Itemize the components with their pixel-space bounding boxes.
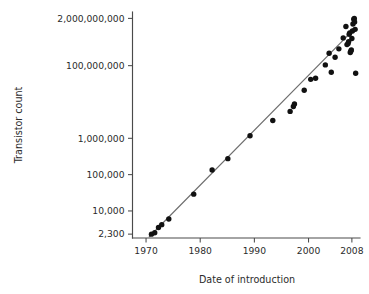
- y-axis-title: Transistor count: [13, 86, 24, 164]
- data-point: [159, 222, 164, 227]
- y-tick-label-2: 100,000: [87, 169, 125, 180]
- x-tick-label-3: 2000: [297, 245, 321, 256]
- data-point: [349, 36, 354, 41]
- data-point: [329, 70, 334, 75]
- data-point: [326, 51, 331, 56]
- data-point: [302, 88, 307, 93]
- x-axis-title: Date of introduction: [199, 274, 295, 285]
- y-tick-label-4: 100,000,000: [66, 60, 125, 71]
- data-point: [349, 47, 354, 52]
- data-point: [247, 133, 252, 138]
- data-point: [152, 230, 157, 235]
- y-tick-label-3: 1,000,000: [78, 133, 125, 144]
- data-point: [341, 35, 346, 40]
- data-point: [287, 109, 292, 114]
- data-point: [332, 55, 337, 60]
- data-point: [313, 76, 318, 81]
- data-point: [225, 156, 230, 161]
- y-tick-label-1: 10,000: [92, 205, 124, 216]
- y-tick-label-5: 2,000,000,000: [57, 13, 124, 24]
- data-point: [191, 191, 196, 196]
- data-point: [336, 46, 341, 51]
- data-point: [352, 27, 357, 32]
- x-tick-label-0: 1970: [134, 245, 158, 256]
- data-point: [308, 77, 313, 82]
- data-point: [270, 118, 275, 123]
- y-tick-label-0: 2,300: [98, 228, 124, 239]
- data-point: [209, 167, 214, 172]
- data-point: [353, 70, 358, 75]
- data-point: [352, 19, 357, 24]
- chart-canvas: 2,30010,000100,0001,000,000100,000,0002,…: [0, 0, 369, 294]
- x-tick-label-2: 1990: [243, 245, 267, 256]
- data-point: [343, 24, 348, 29]
- data-point: [166, 216, 171, 221]
- transistor-count-chart: 2,30010,000100,0001,000,000100,000,0002,…: [0, 0, 369, 294]
- data-point: [292, 101, 297, 106]
- data-point: [323, 62, 328, 67]
- x-tick-label-4: 2008: [340, 245, 364, 256]
- x-tick-label-1: 1980: [189, 245, 213, 256]
